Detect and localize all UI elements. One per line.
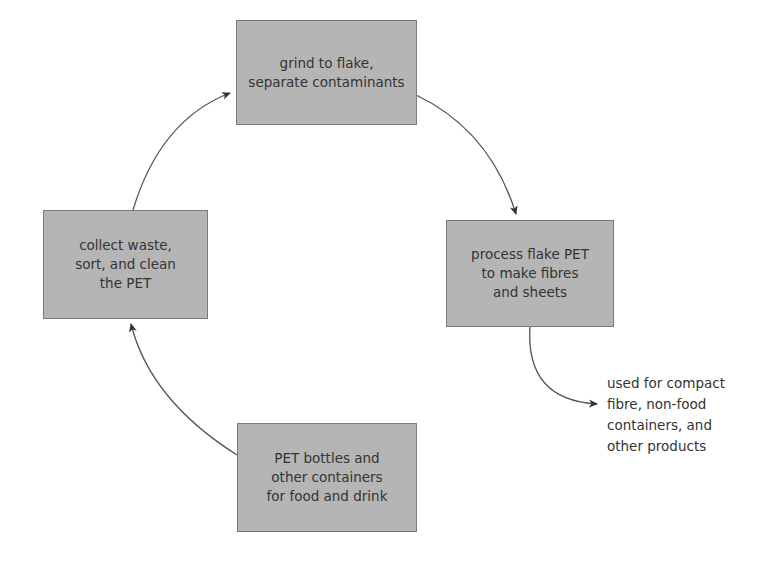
- arrow-grind-to-process: [416, 95, 516, 214]
- node-process-flake: process flake PET to make fibres and she…: [446, 220, 614, 327]
- node-grind-to-flake: grind to flake, separate contaminants: [236, 20, 417, 125]
- node-grind-label: grind to flake, separate contaminants: [248, 54, 404, 92]
- node-collect-waste: collect waste, sort, and clean the PET: [43, 210, 208, 319]
- arrow-bottles-to-collect: [131, 324, 237, 455]
- node-collect-label: collect waste, sort, and clean the PET: [75, 236, 176, 293]
- arrow-collect-to-grind: [133, 93, 230, 210]
- node-process-label: process flake PET to make fibres and she…: [471, 245, 589, 302]
- node-pet-bottles: PET bottles and other containers for foo…: [237, 423, 417, 532]
- node-bottles-label: PET bottles and other containers for foo…: [267, 449, 388, 506]
- output-note: used for compact fibre, non-food contain…: [607, 373, 757, 457]
- arrow-process-to-output: [530, 326, 597, 404]
